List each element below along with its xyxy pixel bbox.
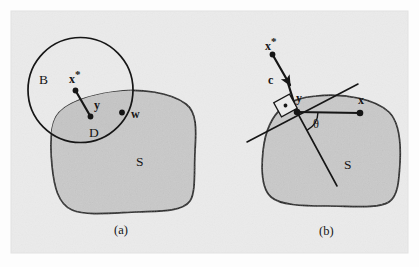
caption-panel-b: (b): [319, 225, 334, 238]
label-region-s-b: S: [344, 158, 352, 172]
caption-panel-a: (a): [114, 224, 128, 237]
point-x-b: [357, 110, 364, 117]
segment-y-x-b: [297, 112, 360, 113]
label-y-a: y: [94, 99, 100, 111]
label-w-a: w: [131, 108, 140, 120]
label-y-b: y: [296, 92, 302, 104]
label-xstar-a-star: *: [75, 68, 81, 80]
label-xstar-a: x*: [69, 69, 81, 85]
point-xstar-a: [73, 88, 79, 94]
label-x-b: x: [358, 94, 364, 106]
label-ball-b: B: [39, 73, 48, 87]
figure-canvas: [0, 0, 419, 267]
figure-container: B x* y w D S (a) x* c y x θ S (b): [0, 0, 419, 267]
point-w-a: [119, 110, 125, 116]
label-vector-c: c: [268, 74, 273, 86]
label-theta: θ: [313, 118, 319, 131]
point-y-a: [88, 114, 94, 120]
label-region-d: D: [89, 126, 99, 140]
label-xstar-b: x*: [265, 36, 277, 52]
label-xstar-b-star: *: [271, 35, 277, 47]
point-y-b: [294, 109, 301, 116]
label-region-s-a: S: [136, 155, 144, 169]
